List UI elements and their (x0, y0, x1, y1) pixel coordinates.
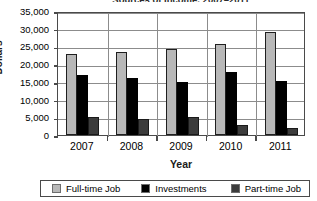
y-tick-label: 15,000 (5, 78, 49, 87)
bar (116, 52, 127, 135)
y-tick-label: 20,000 (5, 60, 49, 69)
y-axis-title: Dollars (0, 41, 4, 75)
chart-legend: Full-time JobInvestmentsPart-time Job (40, 180, 310, 197)
x-tick-label: 2011 (255, 140, 305, 152)
y-tick-mark (54, 30, 58, 32)
x-axis-title: Year (57, 158, 305, 170)
bar (237, 125, 248, 135)
legend-item[interactable]: Full-time Job (41, 183, 130, 194)
category-divider (108, 13, 109, 137)
legend-label: Full-time Job (66, 183, 120, 194)
y-tick-label: 35,000 (5, 7, 49, 16)
legend-label: Investments (155, 183, 206, 194)
gridline (58, 30, 304, 31)
y-tick-mark (54, 83, 58, 85)
y-tick-label: 5,000 (5, 113, 49, 122)
bar (177, 82, 188, 135)
x-tick-label: 2008 (106, 140, 156, 152)
bar (226, 72, 237, 135)
category-divider (256, 13, 257, 137)
bar-chart: Sources of Income, 2007–2011 Dollars Yea… (0, 0, 317, 201)
bar (188, 117, 199, 135)
category-divider (207, 13, 208, 137)
bar (265, 32, 276, 135)
plot-area (57, 12, 305, 136)
legend-swatch-icon (231, 184, 240, 193)
legend-item[interactable]: Part-time Job (220, 183, 309, 194)
legend-item[interactable]: Investments (130, 183, 219, 194)
legend-swatch-icon (141, 184, 150, 193)
y-tick-mark (54, 65, 58, 67)
bar (138, 119, 149, 135)
y-tick-label: 0 (5, 131, 49, 140)
bar (66, 54, 77, 135)
y-tick-label: 25,000 (5, 42, 49, 51)
bar (287, 128, 298, 135)
legend-swatch-icon (52, 184, 61, 193)
x-tick-label: 2007 (57, 140, 107, 152)
x-tick-label: 2009 (156, 140, 206, 152)
chart-title: Sources of Income, 2007–2011 (57, 0, 305, 2)
y-tick-mark (54, 119, 58, 121)
y-tick-mark (54, 12, 58, 14)
y-tick-mark (54, 48, 58, 50)
bar (276, 81, 287, 135)
bar (215, 44, 226, 135)
y-tick-label: 30,000 (5, 25, 49, 34)
y-tick-label: 10,000 (5, 96, 49, 105)
bar (77, 75, 88, 135)
bar (127, 78, 138, 135)
y-tick-mark (54, 101, 58, 103)
x-tick-label: 2010 (206, 140, 256, 152)
category-divider (157, 13, 158, 137)
bar (166, 49, 177, 135)
y-tick-mark (54, 136, 58, 138)
gridline (58, 13, 304, 14)
legend-label: Part-time Job (245, 183, 302, 194)
bar (88, 117, 99, 135)
